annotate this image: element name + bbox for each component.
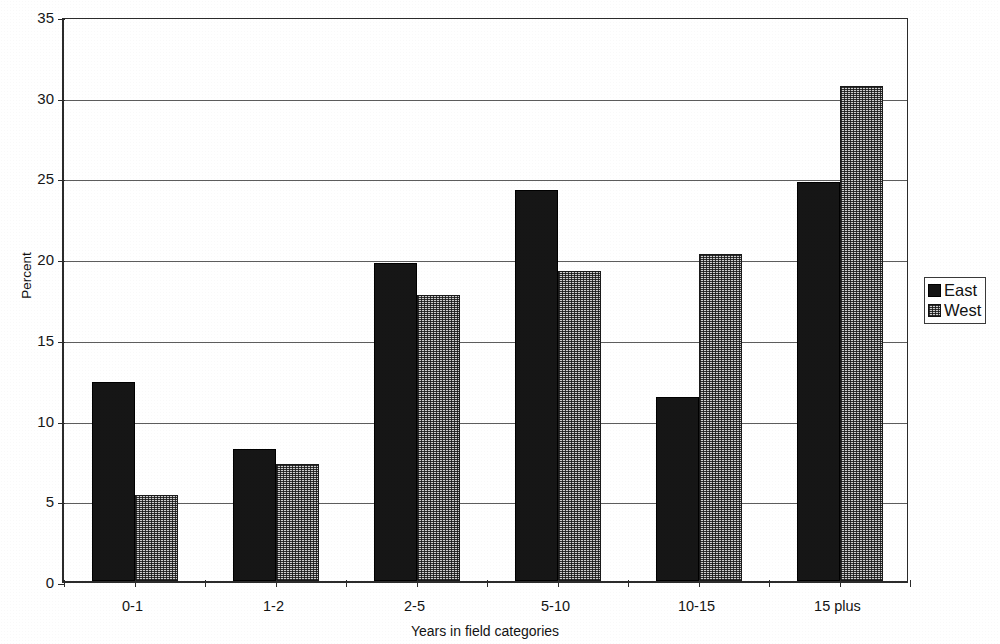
y-axis-tick-labels: 05101520253035 [14,0,54,644]
x-tick-label: 15 plus [767,598,908,614]
x-axis-boundary-tick [64,580,65,587]
legend-item-west: West [928,300,981,320]
plot-area [62,18,908,583]
gridline [64,100,907,101]
x-tick-label: 2-5 [344,598,485,614]
gridline [64,342,907,343]
y-tick-label: 25 [20,171,54,186]
x-axis-title: Years in field categories [62,623,908,639]
legend-label-east: East [944,282,977,299]
x-tick-mark [135,580,136,587]
y-tick-mark [58,423,65,424]
y-tick-mark [58,100,65,101]
bar-west-0-1 [135,495,178,581]
y-tick-label: 30 [20,91,54,106]
bar-east-2-5 [374,263,417,581]
bar-west-5-10 [558,271,601,581]
y-tick-label: 35 [20,10,54,25]
gridline [64,261,907,262]
y-tick-label: 5 [20,494,54,509]
legend-swatch-west-icon [928,304,941,317]
bar-east-10-15 [656,397,699,581]
x-axis-boundary-tick [910,580,911,587]
x-axis-boundary-tick [628,580,629,587]
y-tick-label: 10 [20,414,54,429]
bar-east-5-10 [515,190,558,581]
x-tick-label: 1-2 [203,598,344,614]
x-tick-label: 5-10 [485,598,626,614]
legend-label-west: West [944,302,981,319]
gridline [64,180,907,181]
y-tick-mark [58,19,65,20]
bar-east-1-2 [233,449,276,581]
y-tick-mark [58,503,65,504]
x-tick-mark [699,580,700,587]
x-axis-boundary-tick [769,580,770,587]
gridline [64,503,907,504]
legend: East West [924,277,986,324]
bar-east-0-1 [92,382,135,581]
x-tick-mark [417,580,418,587]
y-tick-label: 20 [20,252,54,267]
legend-item-east: East [928,280,981,300]
legend-swatch-east-icon [928,284,941,297]
x-axis-boundary-tick [487,580,488,587]
x-axis-boundary-tick [346,580,347,587]
x-tick-mark [558,580,559,587]
bar-east-15-plus [797,182,840,581]
y-tick-mark [58,180,65,181]
y-tick-label: 0 [20,575,54,590]
bar-west-10-15 [699,254,742,581]
y-tick-mark [58,261,65,262]
x-tick-mark [276,580,277,587]
bar-west-1-2 [276,464,319,581]
y-tick-mark [58,342,65,343]
gridline [64,423,907,424]
bar-west-15-plus [840,86,883,581]
x-tick-label: 10-15 [626,598,767,614]
x-tick-label: 0-1 [62,598,203,614]
y-tick-label: 15 [20,333,54,348]
bar-west-2-5 [417,295,460,581]
x-axis-boundary-tick [205,580,206,587]
bar-chart: Percent 05101520253035 0-11-22-55-1010-1… [0,0,1000,644]
x-tick-mark [840,580,841,587]
